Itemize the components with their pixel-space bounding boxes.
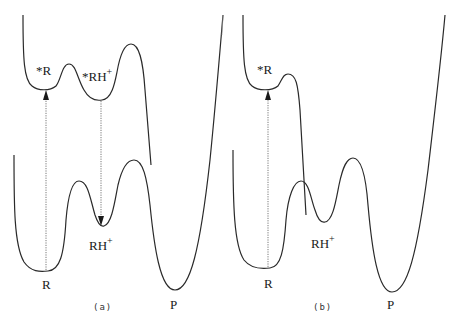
panel-b-label-product: P (387, 298, 394, 311)
panel-b-label-protonated-text: RH (311, 236, 329, 251)
panel-b-excitation-arrowhead-icon (265, 90, 271, 100)
panel-a-label-protonated-text: RH (89, 238, 107, 253)
panel-b (222, 15, 445, 292)
panel-a-label-excited-protonated-text: *RH (82, 69, 107, 84)
panel-a-emission-arrowhead-icon (98, 216, 104, 226)
panel-b-label-protonated-charge: + (329, 233, 335, 244)
panel-a-label-protonated: RH+ (89, 237, 113, 252)
panel-a-label-excited-reactant: *R (36, 64, 51, 77)
panel-a-label-excited-protonated-charge: + (107, 66, 113, 77)
panel-a-label-product: P (170, 298, 177, 311)
panel-b-excited-state-curve (243, 15, 306, 215)
panel-b-label-protonated: RH+ (311, 235, 335, 250)
panel-b-ground-state-curve (233, 15, 445, 292)
panel-a-ground-state-curve (14, 15, 223, 290)
panel-a-excitation-arrowhead-icon (43, 90, 49, 100)
potential-energy-diagram: *R *RH+ RH+ R P (a) *R RH+ R P (b) (0, 0, 453, 327)
panel-a (14, 15, 223, 290)
panel-a-caption: (a) (93, 303, 112, 312)
diagram-canvas (0, 0, 453, 327)
panel-b-label-excited-reactant: *R (257, 63, 272, 76)
panel-a-label-protonated-charge: + (107, 235, 113, 246)
panel-a-excited-state-curve (23, 15, 151, 165)
panel-a-label-excited-protonated: *RH+ (82, 68, 112, 83)
panel-b-label-reactant: R (264, 277, 273, 290)
panel-a-label-reactant: R (42, 278, 51, 291)
panel-b-caption: (b) (313, 303, 332, 312)
